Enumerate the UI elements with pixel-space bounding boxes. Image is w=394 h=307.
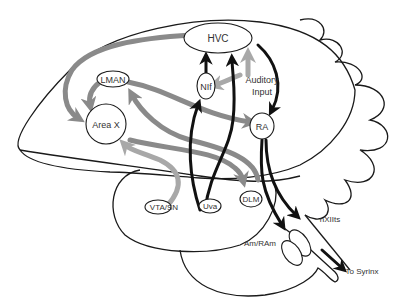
nif-node: NIf bbox=[197, 73, 215, 99]
dlm-node: DLM bbox=[240, 191, 262, 207]
modulatory-pathways bbox=[125, 55, 248, 205]
auditory-to-nif-arrow bbox=[215, 75, 240, 85]
nxiits-label: nXIIts bbox=[320, 215, 340, 224]
song-system-diagram: HVC NIf Auditory Input LMAN Area X RA VT… bbox=[0, 0, 394, 307]
syrinx-label-group: To Syrinx bbox=[346, 267, 379, 276]
am-ram-label: Am/RAm bbox=[244, 239, 276, 248]
to-syrinx-label: To Syrinx bbox=[346, 267, 379, 276]
area-x-node: Area X bbox=[86, 104, 126, 144]
ra-node: RA bbox=[250, 113, 274, 139]
dlm-label: DLM bbox=[243, 195, 260, 204]
hvc-node: HVC bbox=[184, 23, 252, 53]
brain-outline bbox=[18, 19, 388, 296]
lman-to-areax-arrow bbox=[89, 82, 100, 105]
vta-sn-node: VTA/SN bbox=[145, 200, 178, 214]
area-x-label: Area X bbox=[92, 120, 120, 130]
lman-label: LMAN bbox=[100, 75, 125, 85]
vtasn-to-areax-arrow bbox=[125, 145, 178, 205]
uva-node: Uva bbox=[199, 199, 221, 213]
uva-label: Uva bbox=[203, 202, 218, 211]
auditory-label-line1: Auditory bbox=[245, 75, 279, 85]
nxiits-to-syrinx-arrow bbox=[322, 250, 342, 268]
hvc-label: HVC bbox=[207, 33, 228, 44]
auditory-label-line2: Input bbox=[252, 87, 273, 97]
ra-label: RA bbox=[256, 122, 269, 132]
uva-to-nif-arrow bbox=[190, 105, 200, 210]
cerebellum-outline bbox=[300, 19, 388, 219]
brainstem-outline bbox=[180, 225, 338, 296]
nif-label: NIf bbox=[200, 82, 212, 92]
vta-sn-label: VTA/SN bbox=[150, 203, 179, 212]
lman-node: LMAN bbox=[97, 71, 129, 87]
auditory-input-label: Auditory Input bbox=[245, 75, 279, 97]
